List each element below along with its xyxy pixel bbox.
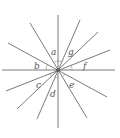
angle-label-a: a <box>51 47 56 57</box>
angle-label-c: c <box>36 80 41 90</box>
intersection-point <box>56 68 60 72</box>
angle-arc-g <box>58 61 62 62</box>
angle-arc-f <box>71 65 72 70</box>
angle-label-b: b <box>34 61 40 71</box>
angle-label-f: f <box>82 61 88 71</box>
angle-label-g: g <box>68 47 74 57</box>
angle-arc-e <box>62 74 65 77</box>
angle-arc-a <box>53 61 58 62</box>
angle-arc-b <box>46 64 47 70</box>
angle-label-d: d <box>50 89 56 99</box>
angle-label-e: e <box>69 80 74 90</box>
intersecting-lines-diagram: a b c d e f g <box>0 0 120 138</box>
